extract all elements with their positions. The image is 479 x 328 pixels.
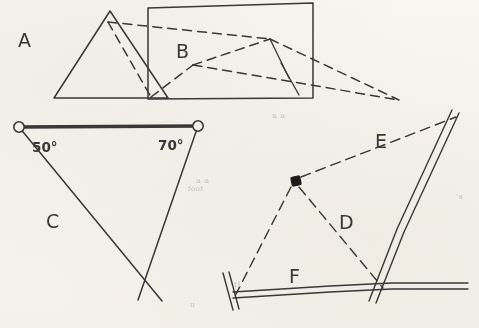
figure-b-dashed-overlay <box>108 22 399 100</box>
figure-label-b: B <box>176 40 189 62</box>
figure-label-a: A <box>18 29 31 51</box>
worksheet-canvas: A B C 50° 70° D E F a a a a foot 's u tl <box>0 0 479 328</box>
geometry-drawing: A B C 50° 70° D E F <box>0 0 479 328</box>
figure-label-d: D <box>339 211 354 233</box>
figure-label-f: F <box>289 265 300 287</box>
sight-line-d <box>299 187 383 288</box>
figure-c-left-node <box>14 122 24 132</box>
angle-label-70: 70° <box>158 137 184 153</box>
station-point-marker <box>291 176 302 187</box>
road-end-marker-bar <box>223 272 239 310</box>
figure-c-baseline <box>19 126 198 127</box>
figure-c-right-node <box>193 121 203 131</box>
figure-a-triangle <box>54 11 168 98</box>
angle-label-50: 50° <box>32 139 58 155</box>
figure-b-solid-panel <box>148 3 313 99</box>
sight-line-f <box>235 187 291 296</box>
figure-b-inner-solid-spur <box>270 39 299 95</box>
road-horizontal <box>233 283 468 298</box>
figure-label-e: E <box>375 130 387 152</box>
figure-label-c: C <box>46 210 59 232</box>
